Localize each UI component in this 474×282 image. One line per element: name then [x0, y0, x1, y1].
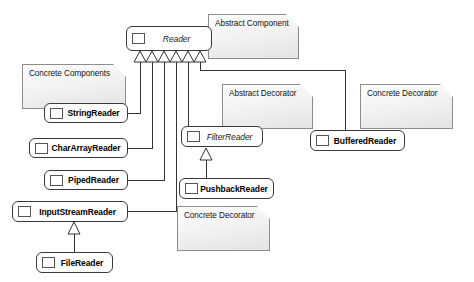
class-icon: [316, 135, 329, 146]
arrowhead-generalization: [134, 51, 146, 62]
arrowhead-generalization: [170, 51, 182, 62]
arrowhead-generalization: [68, 222, 80, 234]
class-node-stringreader[interactable]: StringReader: [44, 103, 128, 123]
class-icon: [50, 108, 63, 119]
class-icon: [42, 257, 55, 268]
class-icon: [132, 33, 145, 44]
class-label: BufferedReader: [329, 136, 404, 146]
edge-chararrayreader-reader: [128, 62, 152, 148]
class-label: CharArrayReader: [48, 143, 127, 153]
note-label: Concrete Decorator: [367, 89, 438, 98]
note-fold-icon: [257, 206, 270, 219]
note-fold-icon: [300, 84, 313, 97]
class-node-bufferedreader[interactable]: BufferedReader: [310, 130, 405, 151]
class-label: FilterReader: [200, 132, 262, 142]
class-node-pushbackreader[interactable]: PushbackReader: [179, 178, 274, 199]
class-label: Reader: [145, 34, 211, 44]
class-node-chararrayreader[interactable]: CharArrayReader: [29, 138, 128, 158]
arrowhead-generalization: [158, 51, 170, 62]
class-node-reader[interactable]: Reader: [126, 26, 212, 51]
note-fold-icon: [440, 84, 453, 97]
note-label: Concrete Decorator: [184, 211, 255, 220]
note-label: Concrete Components: [29, 69, 110, 78]
class-node-filterreader[interactable]: FilterReader: [181, 126, 263, 147]
class-node-filereader[interactable]: FileReader: [36, 252, 113, 273]
note-concrete-decorator-right: Concrete Decorator: [360, 84, 453, 129]
note-concrete-decorator-bottom: Concrete Decorator: [177, 206, 270, 251]
class-label: PipedReader: [63, 175, 127, 185]
note-abstract-decorator: Abstract Decorator: [222, 84, 313, 129]
class-icon: [187, 131, 200, 142]
arrowhead-generalization: [194, 51, 206, 62]
class-label: StringReader: [63, 108, 127, 118]
class-icon: [35, 143, 48, 154]
arrowhead-generalization: [146, 51, 158, 62]
note-label: Abstract Component: [215, 19, 289, 28]
note-abstract-component: Abstract Component: [208, 14, 299, 59]
class-label: PushbackReader: [198, 184, 273, 194]
arrowhead-generalization: [200, 148, 212, 160]
note-fold-icon: [113, 64, 126, 77]
arrowhead-generalization: [182, 51, 194, 62]
edge-inputstreamreader-reader: [128, 62, 176, 211]
class-icon: [50, 175, 63, 186]
edge-filterreader-reader: [181, 62, 188, 136]
note-label: Abstract Decorator: [229, 89, 296, 98]
class-node-pipedreader[interactable]: PipedReader: [44, 170, 128, 190]
edge-pipedreader-reader: [128, 62, 164, 180]
class-node-inputstreamreader[interactable]: InputStreamReader: [12, 201, 128, 222]
class-diagram-canvas: Abstract Component Concrete Components A…: [0, 0, 474, 282]
class-icon: [18, 206, 31, 217]
class-icon: [185, 183, 198, 194]
class-label: InputStreamReader: [31, 207, 127, 217]
class-label: FileReader: [55, 258, 112, 268]
edge-stringreader-reader: [128, 62, 140, 113]
